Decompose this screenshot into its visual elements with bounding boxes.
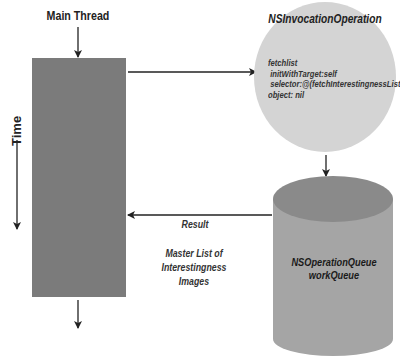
code-line: selector:@(fetchInterestingnessList [268,79,400,90]
code-line: fetchlist [268,58,400,69]
time-label: Time [4,116,30,146]
result-description-line: Master List of [146,247,241,261]
result-description-line: Interestingness [146,261,241,275]
code-line: initWithTarget:self [268,69,400,80]
invocation-operation-title: NSInvocationOperation [265,12,386,26]
operation-queue-subtitle: workQueue [281,269,387,282]
result-description: Master List of Interestingness Images [146,247,241,289]
invocation-code: fetchlist initWithTarget:self selector:@… [268,58,400,100]
main-thread-bar [32,58,126,297]
operation-queue-title: NSOperationQueue [281,256,387,269]
main-thread-label: Main Thread [14,8,142,23]
result-label: Result [155,219,234,230]
operation-queue-label: NSOperationQueue workQueue [281,256,387,282]
result-description-line: Images [146,275,241,289]
code-line: object: nil [268,90,400,101]
